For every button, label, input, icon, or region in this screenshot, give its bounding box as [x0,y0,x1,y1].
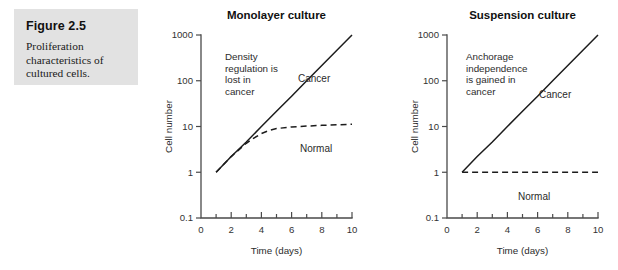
y-tick-label: 1 [188,167,193,178]
x-tick-label: 2 [229,224,234,235]
y-tick-label: 0.1 [426,212,439,223]
x-tick-label: 6 [289,224,294,235]
x-tick-label: 10 [347,224,358,235]
chart-annotation-suspension: Anchorageindependenceis gained incancer [466,51,528,97]
figure-root: Figure 2.5 Proliferation characteristics… [0,0,618,270]
y-tick-label: 1 [434,167,439,178]
y-tick-label: 1000 [172,29,193,40]
x-axis-title: Time (days) [251,245,302,256]
x-tick-label: 4 [259,224,265,235]
y-tick-label: 10 [182,121,193,132]
x-tick-label: 6 [535,224,540,235]
x-tick-label: 4 [505,224,511,235]
x-tick-label: 8 [565,224,570,235]
chart-title-suspension: Suspension culture [469,9,576,21]
x-tick-label: 2 [475,224,480,235]
y-tick-label: 1000 [418,29,439,40]
series-label-normal: Normal [300,143,332,154]
series-label-normal: Normal [518,191,550,202]
y-tick-label: 100 [177,75,193,86]
series-label-cancer: Cancer [539,89,572,100]
x-tick-label: 0 [444,224,449,235]
figure-caption-panel: Figure 2.5 Proliferation characteristics… [14,9,138,85]
y-axis-title: Cell number [409,99,420,153]
chart-title-monolayer: Monolayer culture [227,9,326,21]
chart-monolayer: Monolayer culture0.111010010000246810Tim… [160,0,372,270]
x-axis-title: Time (days) [497,245,548,256]
chart-canvas-monolayer: Monolayer culture0.111010010000246810Tim… [160,0,372,270]
x-tick-label: 8 [319,224,324,235]
y-tick-label: 100 [423,75,439,86]
y-tick-label: 0.1 [180,212,193,223]
y-axis-title: Cell number [163,99,174,153]
y-tick-label: 10 [428,121,439,132]
chart-suspension: Suspension culture0.111010010000246810Ti… [406,0,618,270]
figure-caption-text: Proliferation characteristics of culture… [26,40,134,81]
x-tick-label: 0 [198,224,203,235]
chart-canvas-suspension: Suspension culture0.111010010000246810Ti… [406,0,618,270]
chart-annotation-monolayer: Densityregulation islost incancer [225,51,278,97]
x-tick-label: 10 [593,224,604,235]
series-label-cancer: Cancer [298,73,331,84]
figure-number-label: Figure 2.5 [26,19,86,33]
